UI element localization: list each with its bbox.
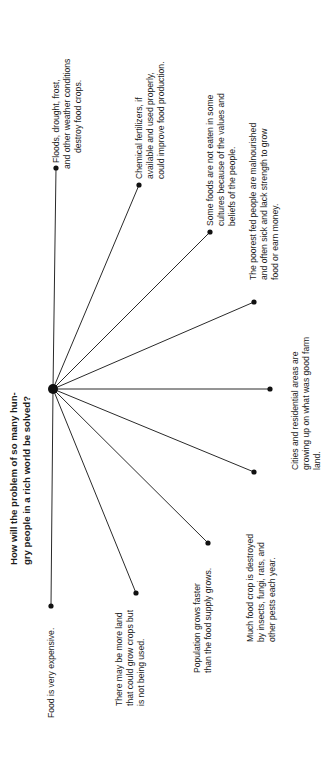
svg-text:is not being used.: is not being used. [136,639,146,706]
label-population: Population grows faster than the food su… [192,568,213,673]
hub-node [48,384,58,394]
svg-text:destroy food crops.: destroy food crops. [73,80,83,153]
svg-text:Population grows faster: Population grows faster [192,583,202,673]
label-cultural-values: Some foods are not eaten in some culture… [205,93,237,226]
svg-text:Food is very expensive.: Food is very expensive. [46,628,56,718]
spoke-unused-land [53,389,136,593]
svg-text:Cities and residential areas a: Cities and residential areas are [290,351,300,470]
svg-text:Chemical fertilizers, if: Chemical fertilizers, if [134,97,144,179]
svg-text:could improve food production.: could improve food production. [156,61,166,179]
endpoint-dots [48,165,272,608]
svg-text:available and used properly,: available and used properly, [145,72,155,179]
diagram-title: How will the problem of so many hun- gry… [8,392,32,565]
title-line-2: gry people in a rich world be solved? [21,396,32,565]
spoke-expensive [51,389,53,606]
svg-text:Floods, drought, frost,: Floods, drought, frost, [51,79,61,163]
spoke-floods [53,168,56,389]
svg-text:beliefs of the people.: beliefs of the people. [227,147,237,226]
svg-text:cultures because of the values: cultures because of the values and [216,93,226,226]
svg-text:than the food supply grows.: than the food supply grows. [203,568,213,673]
svg-text:food or earn money.: food or earn money. [270,204,280,280]
svg-text:There may be more land: There may be more land [114,612,124,706]
label-floods: Floods, drought, frost, and other weathe… [51,59,83,169]
dot-fertilizers [136,182,141,187]
spoke-cultural-values [53,232,210,389]
svg-text:The poorest fed people are mal: The poorest fed people are malnourished [248,123,258,280]
dot-cities [267,386,272,391]
svg-text:Much food crop is destroyed: Much food crop is destroyed [245,534,255,642]
spider-diagram: How will the problem of so many hun- gry… [0,0,331,761]
dot-population [205,540,210,545]
svg-text:and often sick and lack streng: and often sick and lack strength to grow [259,128,269,280]
label-malnourished: The poorest fed people are malnourished … [248,123,280,280]
label-expensive: Food is very expensive. [46,628,56,718]
label-pests: Much food crop is destroyed by insects, … [245,534,277,642]
svg-text:and other weather conditions: and other weather conditions [62,59,72,169]
dot-unused-land [133,590,138,595]
spokes [51,168,270,606]
dot-floods [53,165,58,170]
svg-text:growing up on what was good fa: growing up on what was good farm [301,337,311,470]
label-unused-land: There may be more land that could grow c… [114,609,146,706]
svg-text:by insects, fungi, rats, and: by insects, fungi, rats, and [256,542,266,642]
svg-text:land.: land. [312,451,322,470]
spoke-malnourished [53,302,254,389]
spoke-population [53,389,208,543]
title-line-1: How will the problem of so many hun- [8,392,19,565]
label-cities: Cities and residential areas are growing… [290,337,322,470]
dot-malnourished [251,299,256,304]
dot-expensive [48,603,53,608]
spoke-fertilizers [53,185,139,389]
svg-text:that could grow crops but: that could grow crops but [125,609,135,706]
label-fertilizers: Chemical fertilizers, if available and u… [134,61,166,179]
spoke-pests [53,389,254,472]
dot-cultural-values [207,229,212,234]
svg-text:other pests each year.: other pests each year. [267,557,277,642]
dot-pests [251,469,256,474]
svg-text:Some foods are not eaten in so: Some foods are not eaten in some [205,94,215,226]
